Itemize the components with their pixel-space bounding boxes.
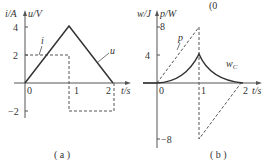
panel-b: w/J p/W 8 4 −8 0 1 2 t/s p wC ( b )	[137, 8, 262, 161]
x-tick-1: 1	[201, 85, 206, 96]
y-label-p: p/W	[159, 8, 178, 19]
x-tick-0: 0	[27, 85, 32, 96]
y-tick-2: 2	[13, 50, 18, 61]
series-u	[25, 26, 113, 83]
y-axis-arrow-icon	[23, 10, 27, 16]
label-u: u	[110, 45, 115, 56]
label-wc: wC	[226, 58, 238, 71]
y-tick-8: 8	[160, 21, 165, 32]
caption-a: ( a )	[54, 149, 70, 161]
caption-b: ( b )	[210, 149, 227, 161]
y-label-u: u/V	[28, 8, 44, 19]
figure-canvas: (0 i/A u/V 4 2 −2 0 1 2 t/s i u ( a )	[0, 0, 273, 167]
y-axis-arrow-icon	[155, 10, 159, 16]
y-label-w: w/J	[137, 8, 151, 19]
panel-a: i/A u/V 4 2 −2 0 1 2 t/s i u ( a )	[5, 8, 131, 161]
x-tick-1: 1	[74, 85, 79, 96]
y-tick-4: 4	[145, 50, 150, 61]
x-label: t/s	[121, 85, 131, 96]
y-tick-neg2: −2	[8, 106, 19, 117]
x-tick-2: 2	[106, 85, 111, 96]
x-tick-0: 0	[159, 85, 164, 96]
y-label-i: i/A	[5, 8, 18, 19]
x-label: t/s	[252, 85, 262, 96]
label-i: i	[41, 35, 44, 46]
top-fragment: (0	[209, 0, 217, 12]
x-tick-2: 2	[243, 85, 248, 96]
label-p: p	[177, 32, 183, 43]
y-tick-neg8: −8	[161, 134, 172, 145]
y-tick-4: 4	[13, 22, 18, 33]
